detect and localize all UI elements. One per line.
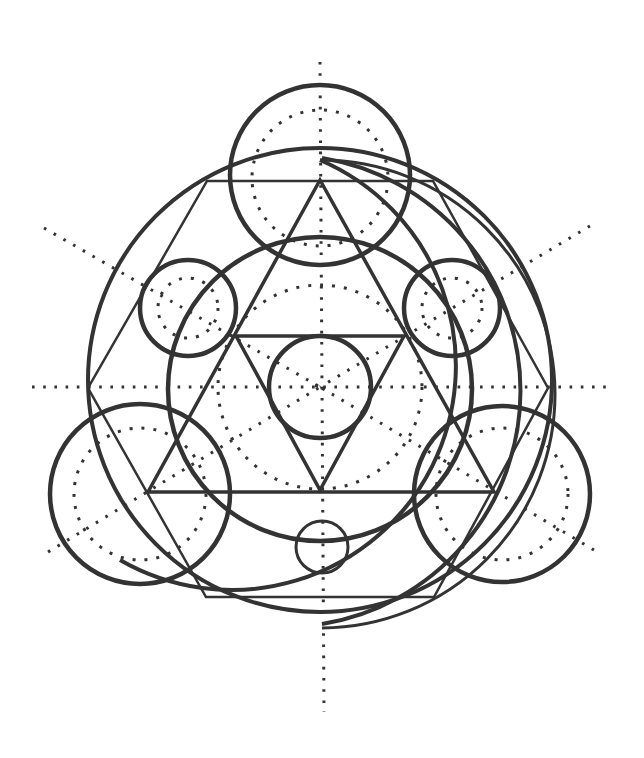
lower-left-circle [50,404,230,584]
geometry-drawing [0,0,644,758]
downward-triangle [236,336,404,490]
middle-ring [168,237,472,541]
lower-right-circle [414,406,590,582]
lower-left-dotted [74,428,206,560]
geometry-svg [0,0,644,758]
bottom-small-circle [296,521,348,573]
